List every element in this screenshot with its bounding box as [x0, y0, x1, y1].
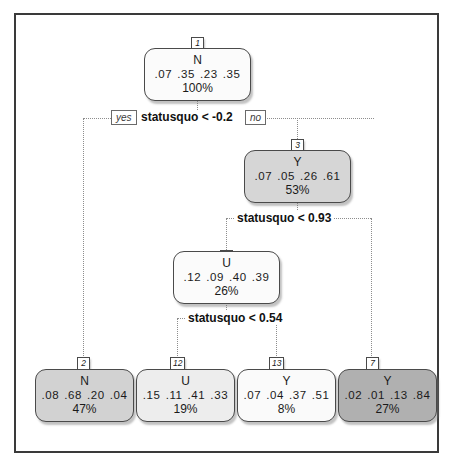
- tree-node-6[interactable]: U .12.09.40.39 26%: [173, 251, 280, 304]
- node-class-6: U: [222, 257, 231, 270]
- split-label-node6: statusquo < 0.54: [185, 311, 285, 325]
- node-prob-value: .35: [177, 68, 195, 81]
- node-pct-12: 19%: [173, 403, 197, 416]
- node-prob-value: .04: [110, 389, 128, 402]
- edge-node6-to-node12: [177, 318, 178, 356]
- edge-root-bar-right: [262, 118, 374, 119]
- node-class-13: Y: [282, 375, 290, 388]
- node-prob-value: .15: [143, 389, 161, 402]
- node-prob-value: .37: [289, 389, 307, 402]
- edge-node3-to-node7: [371, 218, 372, 356]
- node-probs-2: .08.68.20.04: [39, 389, 130, 402]
- node-prob-value: .04: [266, 389, 284, 402]
- tree-node-3[interactable]: Y .07.05.26.61 53%: [244, 150, 351, 203]
- node-pct-7: 27%: [375, 403, 399, 416]
- tree-node-7[interactable]: Y .02.01.13.84 27%: [338, 369, 437, 422]
- node-prob-value: .51: [312, 389, 330, 402]
- decision-tree-figure: statusquo < -0.2 yes no statusquo < 0.93…: [0, 0, 453, 468]
- node-prob-value: .20: [87, 389, 105, 402]
- tree-node-2[interactable]: N .08.68.20.04 47%: [35, 369, 134, 422]
- node-class-3: Y: [293, 156, 301, 169]
- node-pct-2: 47%: [72, 403, 96, 416]
- edge-node3-bar-right: [334, 218, 371, 219]
- node-prob-value: .12: [183, 271, 201, 284]
- node-probs-3: .07.05.26.61: [252, 170, 343, 183]
- node-class-1: N: [193, 54, 202, 67]
- node-prob-value: .07: [154, 68, 172, 81]
- split-label-root: statusquo < -0.2: [138, 110, 236, 124]
- node-probs-1: .07.35.23.35: [152, 68, 243, 81]
- node-prob-value: .35: [223, 68, 241, 81]
- branch-chip-yes: yes: [111, 110, 137, 125]
- node-pct-13: 8%: [278, 403, 295, 416]
- node-prob-value: .26: [300, 170, 318, 183]
- node-pct-6: 26%: [214, 285, 238, 298]
- node-probs-6: .12.09.40.39: [181, 271, 272, 284]
- tree-node-1[interactable]: N .07.35.23.35 100%: [144, 48, 251, 101]
- node-prob-value: .84: [413, 389, 431, 402]
- node-prob-value: .13: [390, 389, 408, 402]
- branch-chip-no: no: [245, 110, 266, 125]
- tree-node-12[interactable]: U .15.11.41.33 19%: [136, 369, 235, 422]
- node-probs-13: .07.04.37.51: [241, 389, 332, 402]
- node-prob-value: .40: [229, 271, 247, 284]
- node-prob-value: .41: [188, 389, 206, 402]
- node-prob-value: .39: [252, 271, 270, 284]
- node-class-2: N: [80, 375, 89, 388]
- edge-yes-to-node2: [83, 118, 84, 356]
- node-probs-7: .02.01.13.84: [342, 389, 433, 402]
- node-prob-value: .33: [210, 389, 228, 402]
- node-class-12: U: [181, 375, 190, 388]
- split-label-node3: statusquo < 0.93: [234, 211, 334, 225]
- node-prob-value: .07: [254, 170, 272, 183]
- tree-node-13[interactable]: Y .07.04.37.51 8%: [237, 369, 336, 422]
- node-prob-value: .09: [206, 271, 224, 284]
- node-prob-value: .01: [367, 389, 385, 402]
- node-prob-value: .11: [166, 389, 183, 402]
- node-class-7: Y: [383, 375, 391, 388]
- node-pct-3: 53%: [285, 184, 309, 197]
- node-prob-value: .68: [64, 389, 82, 402]
- node-prob-value: .07: [243, 389, 261, 402]
- node-prob-value: .08: [41, 389, 59, 402]
- node-prob-value: .05: [277, 170, 295, 183]
- node-prob-value: .02: [344, 389, 362, 402]
- node-prob-value: .61: [323, 170, 341, 183]
- node-prob-value: .23: [200, 68, 218, 81]
- node-pct-1: 100%: [182, 82, 213, 95]
- node-probs-12: .15.11.41.33: [140, 389, 230, 402]
